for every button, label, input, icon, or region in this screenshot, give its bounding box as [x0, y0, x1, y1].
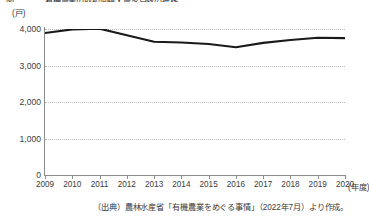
- x-tick-mark: [45, 175, 46, 179]
- x-tick-label: 2014: [172, 180, 190, 189]
- x-tick-label: 2009: [36, 180, 54, 189]
- x-tick-label: 2011: [91, 180, 109, 189]
- x-tick-label: 2013: [145, 180, 163, 189]
- x-tick-mark: [154, 175, 155, 179]
- x-tick-label: 2012: [118, 180, 136, 189]
- y-axis-tick-labels: 01,0002,0003,0004,000: [0, 0, 41, 216]
- x-tick-mark: [290, 175, 291, 179]
- y-tick-label: 3,000: [19, 61, 41, 71]
- y-tick-label: 1,000: [19, 134, 41, 144]
- x-tick-label: 2017: [254, 180, 272, 189]
- x-tick-label: 2015: [200, 180, 218, 189]
- x-tick-mark: [345, 175, 346, 179]
- x-tick-label: 2010: [63, 180, 81, 189]
- x-tick-label: 2019: [309, 180, 327, 189]
- x-tick-mark: [263, 175, 264, 179]
- x-tick-mark: [318, 175, 319, 179]
- x-tick-mark: [181, 175, 182, 179]
- x-tick-mark: [72, 175, 73, 179]
- y-tick-label: 2,000: [19, 97, 41, 107]
- x-tick-mark: [100, 175, 101, 179]
- x-axis-line: [44, 175, 346, 176]
- chart-figure: 図 有機農業の取組面積・農家戸数の推移 (戸) 01,0002,0003,000…: [0, 0, 369, 216]
- y-tick-label: 4,000: [19, 24, 41, 34]
- x-tick-label: 2018: [281, 180, 299, 189]
- x-tick-mark: [127, 175, 128, 179]
- x-axis-unit-label: (年度): [348, 180, 369, 192]
- x-tick-mark: [236, 175, 237, 179]
- data-series-line: [45, 29, 345, 175]
- y-tick-label: 0: [36, 170, 41, 180]
- source-note: （出典）農林水産省「有機農業をめぐる事情」（2022年7月）より作成。: [93, 200, 348, 212]
- series-polyline: [45, 29, 345, 47]
- x-tick-mark: [209, 175, 210, 179]
- x-tick-label: 2016: [227, 180, 245, 189]
